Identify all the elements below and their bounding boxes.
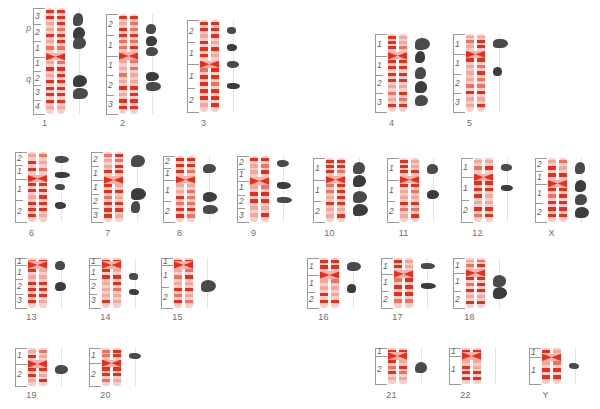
chromosome-band [477, 45, 485, 48]
chromosome-unit-4: 11234 [374, 34, 430, 132]
chromatid-p-arm [331, 258, 339, 272]
chromosome-band [57, 16, 65, 19]
chromosome-band [485, 194, 493, 197]
region-number: 2 [163, 293, 168, 302]
chromosome-band [200, 89, 208, 93]
chromatid-q-arm [176, 182, 184, 222]
chromosome-band [174, 294, 182, 297]
fish-signal-column [491, 258, 509, 308]
ruler-tick [387, 201, 395, 202]
chromosome-band [104, 190, 112, 193]
chromosome-band [466, 36, 474, 39]
chromosome-band [548, 194, 556, 197]
chromosome-band [104, 159, 112, 162]
chromosome-band [320, 265, 328, 268]
chromosome-band [130, 99, 138, 102]
chromosome-band [176, 208, 184, 211]
ruler-tick [106, 114, 118, 115]
centromere [474, 174, 493, 181]
chromosome-band [119, 60, 127, 63]
chromosome-unit-5: 11235 [452, 34, 508, 132]
region-number: 1 [455, 277, 460, 286]
ruler-tick [375, 93, 383, 94]
chromatid-q-arm [39, 268, 47, 308]
chromosome-label-10: 10 [312, 228, 347, 238]
chromosome-band [411, 165, 419, 168]
chromosome-band [39, 355, 47, 358]
chromatid-q-arm [466, 57, 474, 112]
chromosome-band [28, 379, 36, 382]
chromosome-band [200, 103, 208, 107]
fish-signal-column [573, 158, 591, 222]
fish-signal-column [127, 258, 145, 308]
chromosome-band [174, 269, 182, 272]
chromosome-band [102, 379, 110, 382]
region-number: 2 [239, 158, 244, 167]
chromatid-p-arm [211, 20, 219, 62]
chromatid-q-arm [405, 277, 413, 308]
chromosome-band [187, 190, 195, 193]
chromosome-band [388, 104, 396, 107]
centromere [466, 269, 485, 276]
chromosome-band [474, 194, 482, 197]
chromosome-band [119, 93, 127, 96]
chromosome-band [102, 350, 110, 353]
chromatid-q-arm [174, 268, 182, 308]
fish-signal-blob [146, 47, 158, 56]
fish-signal-column [491, 34, 509, 112]
chromosome-band [46, 10, 54, 13]
ruler-tick [381, 258, 393, 259]
fish-signal-column [53, 258, 71, 308]
chromatid-q-arm [388, 58, 396, 112]
chromosome-band [211, 103, 219, 107]
chromosome-band [102, 269, 110, 272]
chromosome-band [39, 189, 47, 192]
fish-signal-column [129, 152, 147, 222]
chromatid-p-arm [548, 158, 556, 181]
ruler-spine [91, 152, 92, 222]
chromosome-band [394, 292, 402, 296]
chromosome-band [559, 214, 567, 217]
chromosome-band [320, 300, 328, 304]
chromosome-band [466, 264, 474, 267]
chromosome-band [130, 86, 138, 89]
ruler-tick [313, 201, 321, 202]
chromosome-band [39, 161, 47, 165]
region-number: 2 [537, 160, 542, 169]
region-number: 2 [377, 79, 382, 88]
chromatid-q-arm [399, 359, 407, 384]
chromosome-band [399, 98, 407, 101]
centromere [28, 360, 47, 367]
ruler-tick [375, 75, 383, 76]
chromosome-band [28, 214, 36, 217]
chromosome-band [485, 214, 493, 217]
chromosome-band [477, 71, 485, 74]
fish-signal-column [53, 348, 71, 386]
chromatid-p-arm [200, 20, 208, 62]
region-number: 1 [93, 183, 98, 192]
chromosome-unit-19: 1219 [14, 348, 70, 404]
centromere [46, 53, 65, 60]
chromosome-band [176, 196, 184, 199]
centromere [542, 354, 561, 361]
chromosome-band [104, 170, 112, 173]
chromosome-unit-17: 11217 [380, 258, 436, 326]
chromosome-band [250, 206, 258, 210]
chromosome-band [130, 22, 138, 25]
ruler-spine [449, 348, 450, 384]
region-number: 2 [463, 206, 468, 215]
chromosome-band [39, 282, 47, 285]
chromosome-band [400, 165, 408, 168]
chromosome-band [405, 265, 413, 268]
chromosome-band [119, 80, 127, 83]
ruler-spine [307, 258, 308, 308]
region-number: 3 [377, 98, 382, 107]
chromosome-band [473, 360, 481, 363]
chromosome-band [176, 202, 184, 205]
centromere [462, 352, 481, 359]
ruler-tick [375, 34, 387, 35]
chromosome-band [411, 196, 419, 199]
chromosome-band [119, 86, 127, 89]
chromosome-band [466, 45, 474, 48]
region-number: 1 [315, 164, 320, 173]
